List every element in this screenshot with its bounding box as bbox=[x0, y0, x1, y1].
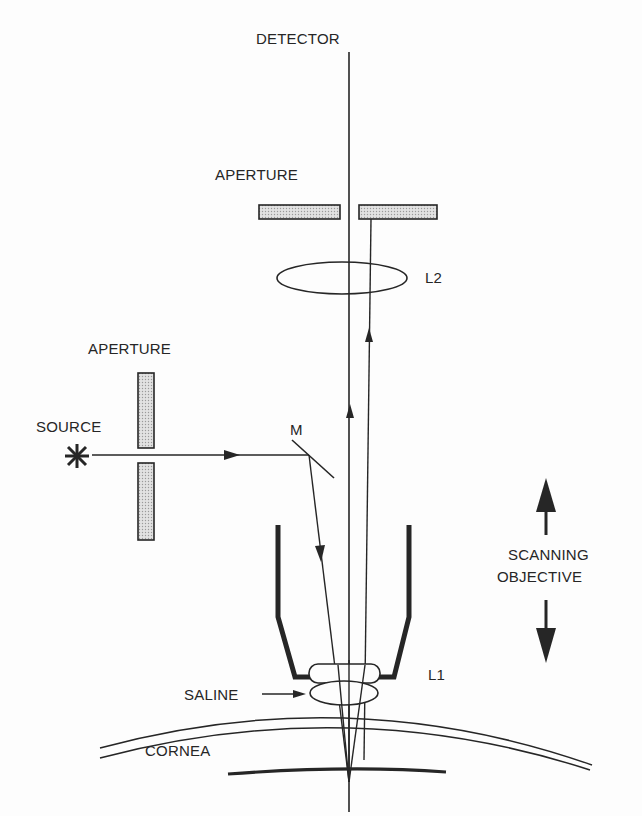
reflected-ray bbox=[309, 455, 349, 782]
source-star-icon bbox=[65, 444, 89, 468]
cornea-label: CORNEA bbox=[145, 742, 210, 759]
arrow-down-icon bbox=[315, 545, 325, 562]
lens-l1 bbox=[309, 664, 380, 683]
lens-l1-label: L1 bbox=[428, 666, 445, 683]
mirror bbox=[292, 440, 334, 478]
lens-l2 bbox=[277, 262, 407, 294]
scanning-arrow-up bbox=[536, 478, 556, 535]
arrow-right-icon bbox=[224, 450, 240, 460]
saline-drop bbox=[310, 681, 378, 705]
arrow-up-icon bbox=[365, 328, 373, 342]
endothelium-layer bbox=[228, 769, 446, 774]
mirror-label: M bbox=[290, 421, 303, 438]
arrow-up-icon bbox=[346, 404, 354, 418]
saline-label: SALINE bbox=[184, 686, 239, 703]
aperture-top bbox=[259, 205, 437, 219]
lens-l2-label: L2 bbox=[425, 269, 442, 286]
scanning-label-line2: OBJECTIVE bbox=[497, 568, 582, 585]
scanning-arrow-down bbox=[536, 600, 556, 663]
detector-label: DETECTOR bbox=[256, 30, 340, 47]
arrow-right-icon bbox=[293, 690, 306, 698]
aperture-left-label: APERTURE bbox=[88, 340, 171, 357]
optical-diagram: DETECTOR APERTURE L2 APERTURE SOURCE M L… bbox=[0, 0, 642, 816]
objective-housing bbox=[278, 525, 409, 677]
aperture-left bbox=[138, 373, 154, 540]
scanning-label-line1: SCANNING bbox=[508, 546, 589, 563]
source-label: SOURCE bbox=[36, 418, 101, 435]
aperture-top-label: APERTURE bbox=[215, 166, 298, 183]
